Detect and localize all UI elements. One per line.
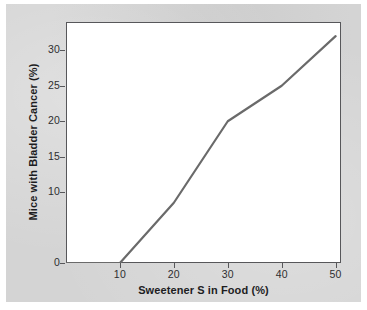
x-axis-title: Sweetener S in Food (%) (66, 284, 341, 296)
y-tick-mark (60, 121, 65, 122)
x-tick-label: 20 (160, 268, 188, 280)
x-tick-label: 10 (106, 268, 134, 280)
y-tick-mark (60, 263, 65, 264)
x-tick-mark (174, 263, 175, 268)
x-tick-mark (228, 263, 229, 268)
y-tick-mark (60, 157, 65, 158)
x-tick-label: 40 (268, 268, 296, 280)
y-tick-mark (60, 86, 65, 87)
y-tick-mark (60, 192, 65, 193)
y-axis-title: Mice with Bladder Cancer (%) (27, 22, 39, 263)
x-tick-mark (282, 263, 283, 268)
x-tick-mark (336, 263, 337, 268)
x-axis-tick-labels: 1020304050 (0, 0, 367, 310)
x-tick-label: 50 (322, 268, 350, 280)
figure-root: 01015202530 1020304050 Sweetener S in Fo… (0, 0, 367, 310)
x-tick-label: 30 (214, 268, 242, 280)
y-tick-mark (60, 50, 65, 51)
x-tick-mark (120, 263, 121, 268)
